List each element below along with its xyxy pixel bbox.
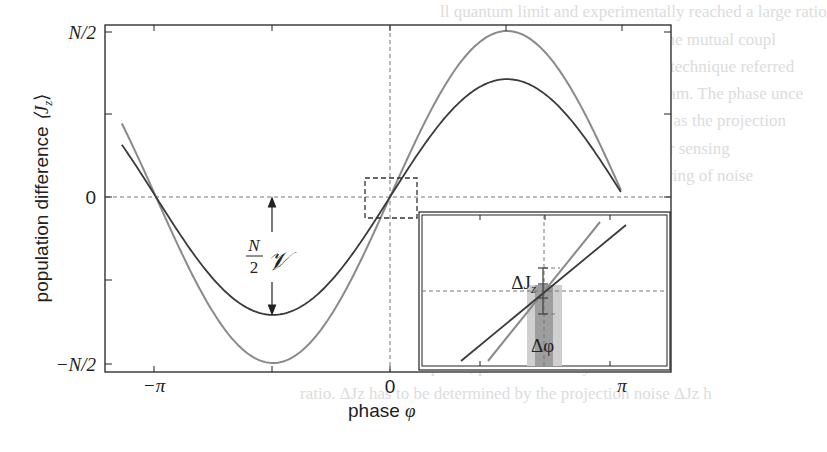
y-tick-top: N/2: [68, 22, 97, 43]
y-tick-bottom: −N/2: [56, 354, 97, 375]
y-tick-zero: 0: [85, 187, 96, 208]
x-tick-neg-pi: −π: [143, 375, 166, 396]
svg-text:2: 2: [250, 258, 259, 277]
x-tick-pi: π: [617, 375, 627, 396]
inset: ΔJz Δφ: [419, 212, 670, 370]
x-tick-zero: 0: [385, 376, 396, 397]
delta-phi-label: Δφ: [531, 335, 554, 356]
svg-text:N: N: [247, 236, 261, 255]
svg-text:population difference ⟨Jz⟩: population difference ⟨Jz⟩: [31, 94, 55, 303]
x-axis-label: phase φ: [348, 400, 416, 421]
y-axis-label: population difference ⟨Jz⟩: [31, 94, 55, 303]
